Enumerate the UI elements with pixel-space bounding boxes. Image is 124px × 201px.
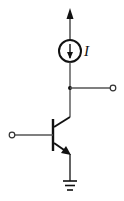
- current-direction-arrow-icon: [67, 52, 73, 59]
- supply-arrow-icon: [67, 8, 74, 40]
- circuit-diagram: I: [0, 0, 124, 201]
- current-source: I: [59, 40, 90, 62]
- emitter-arrow-icon: [61, 146, 71, 155]
- ground-icon: [63, 181, 77, 190]
- input-terminal[interactable]: [9, 132, 15, 138]
- npn-transistor-icon: [53, 117, 71, 155]
- current-source-label: I: [83, 43, 90, 59]
- output-terminal[interactable]: [110, 85, 116, 91]
